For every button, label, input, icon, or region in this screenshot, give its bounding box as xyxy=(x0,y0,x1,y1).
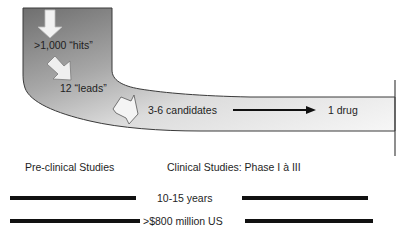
preclinical-label: Pre-clinical Studies xyxy=(25,161,114,173)
cost-bar-left xyxy=(10,219,140,223)
stage-drug-label: 1 drug xyxy=(328,104,358,116)
stage-candidates-label: 3-6 candidates xyxy=(148,104,217,116)
stage-hits-label: >1,000 “hits” xyxy=(34,39,93,51)
stage-leads-label: 12 “leads” xyxy=(60,82,107,94)
duration-bar-right xyxy=(242,196,368,200)
duration-label: 10-15 years xyxy=(157,192,212,204)
duration-bar-left xyxy=(10,196,136,200)
cost-label: >$800 million US xyxy=(143,215,223,227)
cost-bar-right xyxy=(245,219,373,223)
clinical-label: Clinical Studies: Phase I à III xyxy=(167,161,301,173)
